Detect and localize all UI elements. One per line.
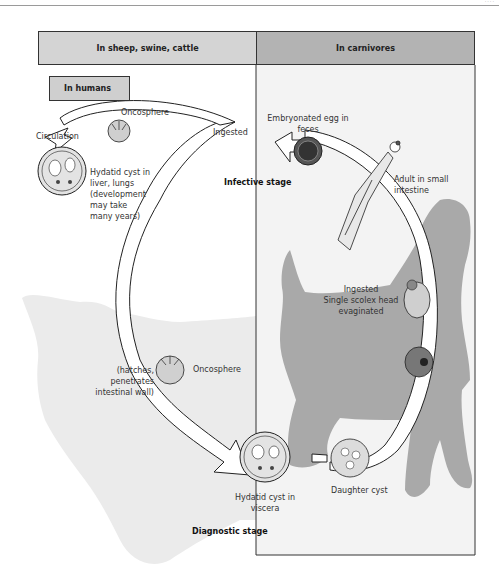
label-hydatid-liver: Hydatid cyst in liver, lungs (developmen… <box>90 167 150 222</box>
label-adult: Adult in small intestine <box>394 174 449 196</box>
sheep-silhouette <box>22 295 256 564</box>
label-daughter-cyst: Daughter cyst <box>331 485 388 496</box>
label-ingested-top: Ingested <box>213 127 248 138</box>
label-circulation: Circulation <box>36 131 79 142</box>
daughter-cyst <box>331 439 369 477</box>
label-hatches: (hatches, penetrates intestinal wall) <box>92 365 154 398</box>
life-cycle-diagram: In sheep, swine, cattle In carnivores In… <box>0 0 499 581</box>
embryonated-egg <box>294 137 322 165</box>
header-humans: In humans <box>49 76 130 101</box>
header-definitive-hosts: In carnivores <box>256 31 475 65</box>
oncosphere-bottom <box>156 356 184 384</box>
header-intermediate-hosts: In sheep, swine, cattle <box>38 31 257 65</box>
label-ingested-scolex: Ingested Single scolex head evaginated <box>316 284 406 317</box>
label-oncosphere-bottom: Oncosphere <box>193 364 241 375</box>
label-embryonated-egg: Embryonated egg in feces <box>263 113 353 135</box>
label-infective-stage: Infective stage <box>224 177 291 188</box>
label-oncosphere-top: Oncosphere <box>121 107 169 118</box>
label-hydatid-viscera: Hydatid cyst in viscera <box>228 492 302 514</box>
hydatid-cyst-viscera <box>240 432 290 482</box>
protoscolex <box>405 347 433 377</box>
hydatid-cyst-liver <box>38 147 86 195</box>
oncosphere-top <box>108 120 130 142</box>
label-diagnostic-stage: Diagnostic stage <box>192 526 268 537</box>
